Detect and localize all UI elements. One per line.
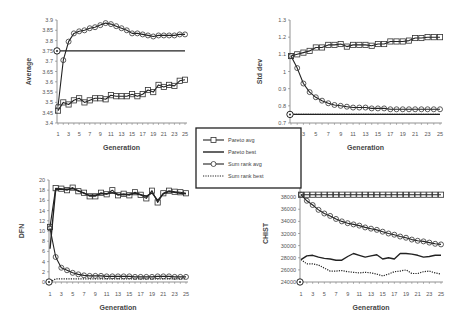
legend: Pareto avgPareto bestSum rank avgSum ran… (196, 128, 301, 188)
y-tick-label: 30000 (281, 243, 296, 249)
y-tick-label: 32000 (281, 231, 296, 237)
y-tick-label: 8 (42, 238, 45, 244)
chart-dfn: 02468101214161820135791113151719212325Ge… (18, 177, 189, 311)
y-axis-title: Std dev (256, 59, 263, 84)
x-tick-label: 19 (400, 131, 406, 137)
x-axis-title: Generation (103, 144, 140, 151)
y-tick-label: 1 (283, 69, 286, 75)
legend-entry: Sum rank avg (228, 161, 262, 167)
x-tick-label: 25 (438, 291, 444, 297)
x-tick-label: 1 (56, 131, 59, 137)
x-tick-label: 23 (425, 131, 431, 137)
x-tick-label: 11 (350, 131, 356, 137)
y-tick-label: 3.6 (45, 79, 53, 85)
x-axis-title: Generation (100, 304, 137, 311)
x-tick-label: 9 (339, 131, 342, 137)
x-tick-label: 11 (108, 131, 114, 137)
series-pareto-avg (288, 35, 442, 59)
series-pareto-avg (298, 192, 443, 197)
x-tick-label: 23 (426, 291, 432, 297)
x-tick-label: 17 (138, 291, 144, 297)
x-tick-label: 15 (126, 291, 132, 297)
x-tick-label: 9 (99, 131, 102, 137)
x-tick-label: 5 (71, 291, 74, 297)
x-tick-label: 5 (78, 131, 81, 137)
x-tick-label: 3 (302, 131, 305, 137)
y-tick-label: 3.75 (42, 48, 53, 54)
y-tick-label: 1.3 (278, 17, 286, 23)
series-sum-rank-best (50, 279, 186, 282)
x-tick-label: 21 (412, 131, 418, 137)
chart-average: 3.43.453.53.553.63.653.73.753.83.853.913… (25, 17, 188, 151)
x-tick-label: 3 (60, 291, 63, 297)
x-tick-label: 21 (415, 291, 421, 297)
x-tick-label: 19 (403, 291, 409, 297)
y-tick-label: 26000 (281, 267, 296, 273)
y-tick-label: 3.65 (42, 69, 53, 75)
x-tick-label: 5 (323, 291, 326, 297)
y-tick-label: 36000 (281, 206, 296, 212)
y-tick-label: 3.45 (42, 110, 53, 116)
chart-chist: 2400026000280003000032000340003600038000… (262, 182, 444, 311)
y-tick-label: 1.1 (278, 51, 286, 57)
y-tick-label: 0.9 (278, 86, 286, 92)
x-axis-title: Generation (347, 144, 384, 151)
x-tick-label: 7 (327, 131, 330, 137)
x-tick-label: 21 (160, 291, 166, 297)
series-sum-rank-avg (289, 54, 443, 112)
x-tick-label: 23 (171, 131, 177, 137)
x-tick-label: 3 (311, 291, 314, 297)
x-tick-label: 25 (183, 291, 189, 297)
legend-circle-marker-icon (211, 162, 216, 167)
x-tick-label: 11 (104, 291, 110, 297)
x-tick-label: 17 (140, 131, 146, 137)
series-pareto-avg (55, 77, 187, 113)
x-tick-label: 23 (172, 291, 178, 297)
x-tick-label: 5 (314, 131, 317, 137)
x-tick-label: 1 (299, 291, 302, 297)
legend-square-marker-icon (211, 138, 216, 143)
y-tick-label: 12 (39, 218, 45, 224)
y-tick-label: 14 (39, 208, 45, 214)
x-tick-label: 17 (387, 131, 393, 137)
x-axis-title: Generation (353, 304, 390, 311)
x-tick-label: 7 (334, 291, 337, 297)
legend-entry: Pareto avg (228, 137, 255, 143)
chart-figure: 3.43.453.53.553.63.653.73.753.83.853.913… (0, 0, 463, 330)
x-tick-label: 13 (362, 131, 368, 137)
y-tick-label: 3.4 (45, 120, 53, 126)
x-tick-label: 13 (368, 291, 374, 297)
x-tick-label: 21 (161, 131, 167, 137)
x-tick-label: 9 (346, 291, 349, 297)
x-tick-label: 15 (375, 131, 381, 137)
y-axis-title: CHIST (262, 222, 269, 244)
y-tick-label: 3.8 (45, 38, 53, 44)
y-tick-label: 1.2 (278, 34, 286, 40)
y-tick-label: 3.9 (45, 17, 53, 23)
series-sum-rank-avg (299, 192, 444, 247)
x-tick-label: 25 (437, 131, 443, 137)
x-tick-label: 13 (115, 291, 121, 297)
y-tick-label: 3.5 (45, 99, 53, 105)
y-tick-label: 0.7 (278, 120, 286, 126)
series-sum-rank-avg (48, 226, 189, 279)
x-tick-label: 11 (356, 291, 362, 297)
x-tick-label: 15 (380, 291, 386, 297)
series-sum-rank-best (54, 48, 60, 54)
y-tick-label: 18 (39, 187, 45, 193)
x-tick-label: 15 (129, 131, 135, 137)
y-tick-label: 3.55 (42, 89, 53, 95)
y-axis-title: Average (25, 58, 33, 85)
x-tick-label: 9 (94, 291, 97, 297)
y-tick-label: 4 (42, 259, 45, 265)
y-tick-label: 3.85 (42, 27, 53, 33)
y-tick-label: 10 (39, 228, 45, 234)
series-sum-rank-best (301, 260, 441, 276)
x-tick-label: 17 (391, 291, 397, 297)
y-tick-label: 16 (39, 197, 45, 203)
y-tick-label: 24000 (281, 279, 296, 285)
legend-entry: Sum rank best (228, 173, 264, 179)
x-tick-label: 7 (82, 291, 85, 297)
y-tick-label: 0 (42, 279, 45, 285)
y-tick-label: 2 (42, 269, 45, 275)
